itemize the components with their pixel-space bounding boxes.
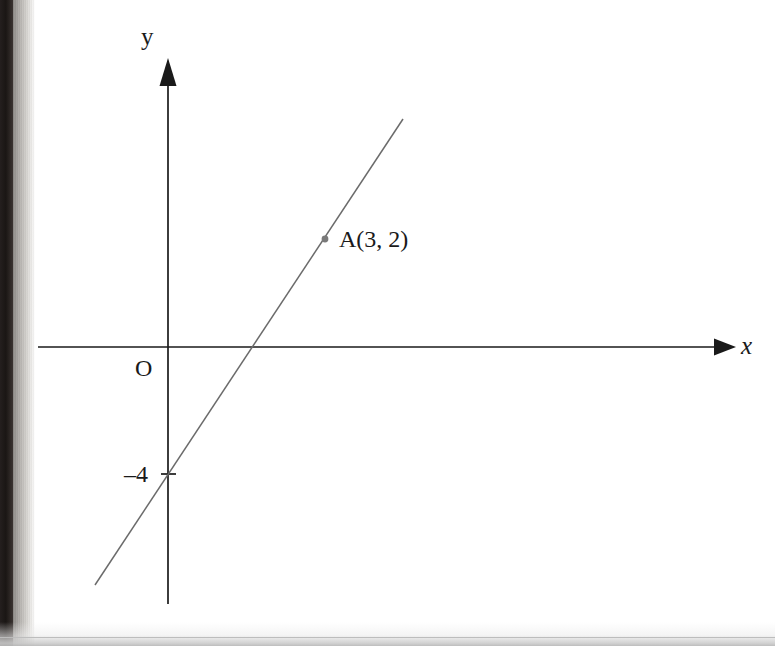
x-axis-arrowhead [714,339,736,356]
x-axis-label: x [741,333,752,358]
page-bottom-edge-line [0,637,775,638]
y-axis-label: y [141,24,154,49]
y-axis-arrowhead [160,58,177,86]
point-a-label: A(3, 2) [339,227,408,251]
origin-label: O [135,356,152,380]
point-a-marker [322,236,329,243]
scanned-page: y x O –4 A(3, 2) [0,0,775,646]
y-tick-label-minus-4: –4 [124,462,148,486]
plotted-line [95,119,403,585]
coordinate-plane-figure [0,0,775,646]
page-bottom-shadow [0,622,775,646]
